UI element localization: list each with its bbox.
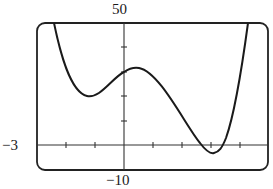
function-curve xyxy=(54,23,248,153)
graph-window xyxy=(0,0,273,189)
